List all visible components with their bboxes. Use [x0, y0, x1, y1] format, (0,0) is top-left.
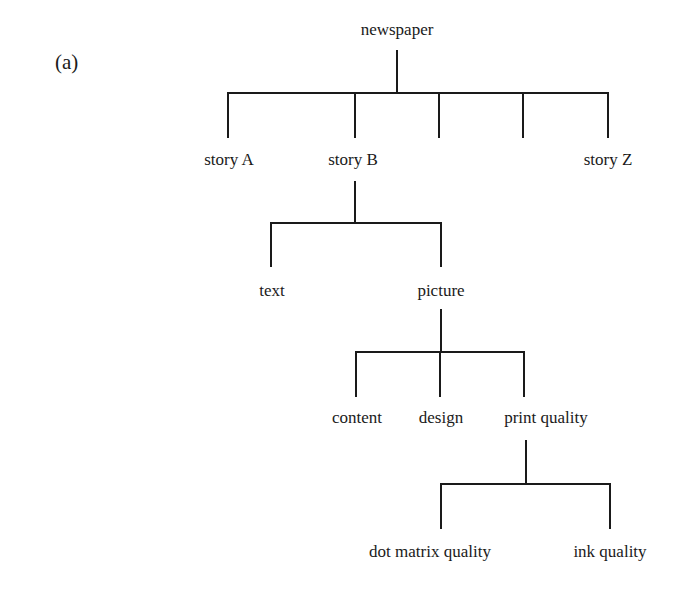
node-ink-quality: ink quality: [573, 543, 646, 560]
node-story-z: story Z: [584, 151, 633, 168]
tree-connectors: [0, 0, 696, 598]
node-newspaper: newspaper: [361, 21, 434, 38]
node-text: text: [259, 282, 285, 299]
node-story-b: story B: [328, 151, 378, 168]
node-picture: picture: [417, 282, 464, 299]
node-design: design: [419, 409, 463, 426]
tree-diagram: (a) ne: [0, 0, 696, 598]
node-print-quality: print quality: [504, 409, 588, 426]
node-content: content: [332, 409, 382, 426]
node-story-a: story A: [204, 151, 254, 168]
node-dot-matrix-quality: dot matrix quality: [369, 543, 491, 560]
